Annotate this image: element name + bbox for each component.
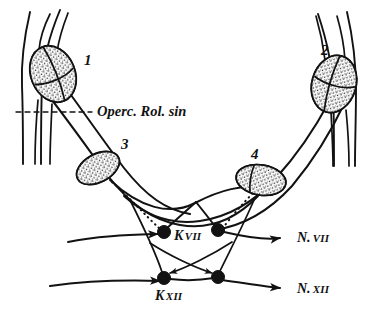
- anatomical-figure: 1 2 3 4 Operc. Rol. sin KVII KXII N.VII: [0, 0, 369, 322]
- nerve-vii-left-branch: [68, 234, 158, 242]
- nucleus-4: [234, 161, 288, 198]
- internuclear-crossing: [150, 242, 232, 273]
- node-k12-left: [158, 272, 171, 285]
- n7-roman: VII: [313, 232, 330, 244]
- k7-label: KVII: [173, 228, 202, 243]
- n7-prefix: N.: [296, 230, 311, 245]
- nucleus-1: [22, 39, 85, 109]
- nucleus-3: [71, 145, 125, 191]
- nucleus-1-label: 1: [84, 52, 92, 68]
- svg-text:KXII: KXII: [154, 288, 183, 303]
- k7-prefix: K: [173, 228, 185, 243]
- figure-labels: 1 2 3 4 Operc. Rol. sin KVII KXII N.VII: [84, 42, 330, 303]
- node-k7-right: [212, 224, 225, 237]
- nerve-xii-right-branch: [222, 280, 280, 288]
- left-lower-stem-a: [35, 100, 38, 164]
- nucleus-1-stipple: [22, 39, 85, 109]
- k12-label: KXII: [154, 288, 183, 303]
- nucleus-2-label: 2: [320, 42, 329, 58]
- svg-text:KVII: KVII: [173, 228, 202, 243]
- corticobulbar-tracts: [41, 76, 344, 230]
- node-k12-right: [212, 271, 225, 284]
- right-lower-stem-a: [331, 112, 333, 166]
- node-k7-left: [158, 226, 171, 239]
- right-tract-outer: [124, 102, 329, 222]
- k7-roman: VII: [185, 230, 202, 242]
- k12-prefix: K: [154, 288, 166, 303]
- nerve-xii-left-branch: [50, 281, 160, 286]
- nuclei-group: [22, 39, 363, 199]
- left-outer-contour: [22, 12, 30, 164]
- right-stem-outer: [337, 16, 345, 60]
- nerve-xii-internode: [170, 278, 214, 280]
- svg-text:N.VII: N.VII: [296, 230, 330, 245]
- k12-roman: XII: [165, 290, 183, 302]
- nucleus-3-label: 3: [120, 136, 129, 152]
- n12-label: N.XII: [296, 281, 330, 296]
- nucleus-4-stipple: [234, 161, 288, 198]
- right-lower-stem-b: [346, 110, 349, 166]
- n7-label: N.VII: [296, 230, 330, 245]
- operculum-label: Operc. Rol. sin: [97, 103, 186, 119]
- nucleus-4-label: 4: [250, 146, 259, 162]
- left-lower-stem-b: [50, 104, 52, 164]
- svg-text:N.XII: N.XII: [296, 281, 330, 296]
- diagram-canvas: 1 2 3 4 Operc. Rol. sin KVII KXII N.VII: [0, 0, 369, 322]
- nerve-vii-right-branch: [224, 232, 280, 239]
- left-stem-inner: [57, 13, 68, 52]
- right-limb-to-xii: [220, 200, 254, 271]
- n12-roman: XII: [312, 283, 330, 295]
- n12-prefix: N.: [296, 281, 311, 296]
- dotted-4-to-k7-right: [223, 190, 256, 228]
